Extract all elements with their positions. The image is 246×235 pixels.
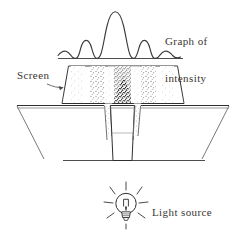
label-graph-line2: intensity — [165, 72, 208, 84]
arrow-leader-icon — [47, 84, 64, 90]
diffraction-figure: Graph of intensity Screen Light source — [0, 0, 246, 235]
bulb-glass — [116, 193, 136, 213]
bulb-base — [122, 212, 131, 218]
figure-canvas — [0, 0, 246, 235]
label-screen: Screen — [17, 69, 49, 81]
label-graph-of-intensity: Graph of intensity — [165, 10, 208, 109]
light-bulb-icon — [104, 182, 148, 229]
label-graph-line1: Graph of — [165, 35, 208, 47]
intensity-curve — [58, 12, 181, 59]
bulb-contact — [123, 218, 128, 221]
label-light-source: Light source — [152, 206, 212, 218]
